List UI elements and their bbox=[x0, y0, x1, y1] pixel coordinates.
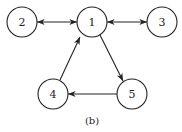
figure-caption: (b) bbox=[85, 115, 99, 126]
node-2: 2 bbox=[7, 7, 37, 37]
edge-4-1 bbox=[60, 37, 80, 80]
node-1: 1 bbox=[77, 7, 107, 37]
node-5: 5 bbox=[117, 79, 147, 109]
node-2-label: 2 bbox=[19, 16, 26, 29]
node-3-label: 3 bbox=[159, 16, 166, 29]
node-4-label: 4 bbox=[50, 88, 57, 101]
node-4: 4 bbox=[38, 79, 68, 109]
node-5-label: 5 bbox=[129, 88, 136, 101]
edge-1-5 bbox=[100, 35, 123, 81]
graph-diagram: 1 2 3 4 5 (b) bbox=[0, 0, 182, 132]
node-3: 3 bbox=[147, 7, 177, 37]
node-1-label: 1 bbox=[89, 16, 96, 29]
